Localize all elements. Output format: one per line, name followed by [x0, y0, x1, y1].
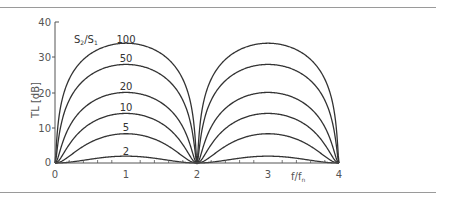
curve-label-2: 2	[123, 146, 129, 157]
y-tick-label-10: 10	[38, 123, 51, 134]
y-axis-title: TL [dB]	[30, 82, 41, 119]
curve-label-10: 10	[120, 102, 133, 113]
curves	[55, 43, 339, 163]
curve-label-100: 100	[116, 34, 135, 45]
curve-label-20: 20	[120, 81, 133, 92]
curve-100	[55, 43, 339, 163]
curve-50	[55, 64, 339, 163]
x-tick-label-1: 1	[123, 169, 129, 180]
transmission-loss-chart: 40 30 20 10 0 0 1 2 3 4 TL [dB] f/fn S2/…	[0, 0, 453, 199]
curve-label-5: 5	[123, 122, 129, 133]
x-tick-label-4: 4	[336, 169, 342, 180]
curve-20	[55, 92, 339, 163]
curve-label-50: 50	[120, 53, 133, 64]
x-tick-label-3: 3	[265, 169, 271, 180]
y-tick-label-40: 40	[38, 17, 51, 28]
x-axis-title: f/fn	[291, 171, 305, 183]
legend-title: S2/S1	[74, 34, 98, 46]
curve-10	[55, 113, 339, 163]
y-tick-label-0: 0	[45, 157, 51, 168]
y-tick-label-30: 30	[38, 52, 51, 63]
x-tick-label-2: 2	[194, 169, 200, 180]
x-tick-label-0: 0	[52, 169, 58, 180]
